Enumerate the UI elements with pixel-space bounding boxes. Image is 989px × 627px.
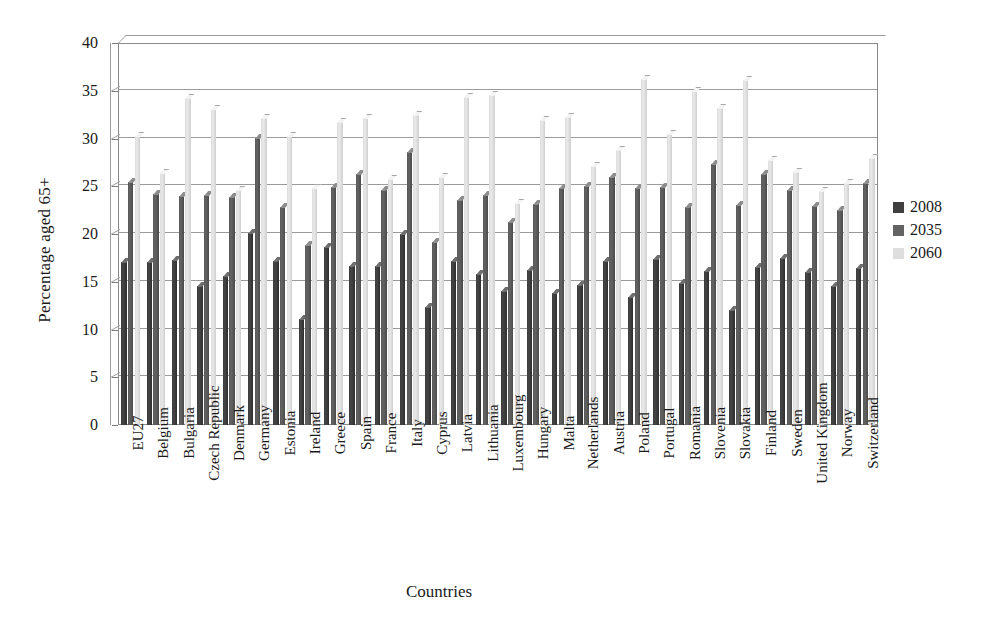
bar-face (863, 183, 868, 425)
x-axis-category-label: Estonia (270, 430, 295, 580)
bar-face (236, 190, 241, 425)
y-axis-tick-label: 10 (54, 322, 98, 338)
bar-2008 (628, 297, 633, 425)
bar-face (299, 319, 304, 425)
bar-2060 (388, 179, 393, 425)
bar-face (616, 150, 621, 425)
legend-item-2060[interactable]: 2060 (893, 242, 989, 265)
bar-top-cap (515, 199, 525, 204)
bar-2060 (540, 120, 545, 425)
bar-group (628, 43, 647, 425)
bar-face (273, 261, 278, 425)
x-axis-category-label: Greece (321, 430, 346, 580)
bar-face (717, 108, 722, 425)
bar-face (229, 197, 234, 425)
bar-top-cap (489, 91, 499, 96)
bar-2035 (128, 182, 133, 425)
y-axis-title-text: Percentage aged 65+ (35, 177, 55, 323)
bar-group (223, 43, 242, 425)
legend-swatch-icon (893, 202, 904, 213)
bar-top-cap (185, 94, 195, 99)
legend-item-2008[interactable]: 2008 (893, 196, 989, 219)
bar-face (628, 297, 633, 425)
y-axis-tick-label: 0 (54, 417, 98, 433)
x-axis-category-label: Lithuania (473, 430, 498, 580)
bar-face (407, 152, 412, 425)
bar-face (743, 80, 748, 425)
bar-face (591, 166, 596, 425)
bar-2060 (185, 98, 190, 425)
bar-face (729, 310, 734, 425)
bar-group (527, 43, 546, 425)
bar-face (552, 293, 557, 425)
legend-item-2035[interactable]: 2035 (893, 219, 989, 242)
bar-2008 (729, 310, 734, 425)
bar-2035 (229, 197, 234, 425)
bar-top-cap (743, 76, 753, 81)
bar-2060 (844, 183, 849, 425)
bar-top-cap (844, 179, 854, 184)
bar-face (432, 242, 437, 425)
bar-2035 (685, 207, 690, 425)
bar-top-cap (565, 113, 575, 118)
bar-face (565, 117, 570, 425)
bar-face (337, 122, 342, 425)
bar-face (540, 120, 545, 425)
bar-2008 (780, 258, 785, 425)
x-axis-category-label: Sweden (777, 430, 802, 580)
bar-2008 (299, 319, 304, 425)
bar-2060 (413, 115, 418, 425)
bar-2008 (223, 276, 228, 425)
bar-2035 (432, 242, 437, 425)
bar-2035 (153, 194, 158, 425)
bar-group (172, 43, 191, 425)
bar-face (869, 158, 874, 425)
bar-face (280, 207, 285, 425)
bar-face (381, 190, 386, 425)
x-axis-category-label: Spain (346, 430, 371, 580)
legend-swatch-icon (893, 225, 904, 236)
bar-face (660, 187, 665, 425)
bar-top-cap (717, 104, 727, 109)
bar-top-cap (540, 116, 550, 121)
bar-2008 (197, 286, 202, 425)
bar-2060 (768, 160, 773, 425)
x-axis-category-label: Hungary (523, 430, 548, 580)
bar-face (653, 259, 658, 425)
bar-2060 (211, 109, 216, 425)
bar-2008 (451, 261, 456, 425)
bar-face (856, 268, 861, 425)
bar-face (223, 276, 228, 425)
bar-group (501, 43, 520, 425)
x-axis-category-labels: EU27BelgiumBulgariaCzech RepublicDenmark… (118, 430, 878, 580)
bar-face (831, 286, 836, 425)
bar-top-cap (819, 187, 829, 192)
bar-2008 (400, 234, 405, 425)
bar-face (761, 174, 766, 425)
bar-2008 (755, 267, 760, 425)
bar-2035 (736, 205, 741, 425)
bar-2008 (349, 266, 354, 425)
bar-face (248, 233, 253, 425)
bar-group (552, 43, 571, 425)
bar-group (400, 43, 419, 425)
bar-2008 (831, 286, 836, 425)
chart-figure: Percentage aged 65+ 0510152025303540 EU2… (0, 0, 989, 627)
bar-face (153, 194, 158, 425)
bar-group (147, 43, 166, 425)
bar-2008 (704, 271, 709, 425)
bar-face (679, 283, 684, 425)
x-axis-category-label: EU27 (118, 430, 143, 580)
bar-face (375, 266, 380, 425)
bar-2008 (476, 274, 481, 425)
bar-2035 (584, 186, 589, 425)
bar-2060 (160, 173, 165, 425)
bar-2008 (679, 283, 684, 425)
bar-group (476, 43, 495, 425)
bar-face (692, 91, 697, 425)
bar-2008 (248, 233, 253, 425)
x-axis-category-label: Netherlands (574, 430, 599, 580)
bar-2060 (464, 97, 469, 425)
x-axis-title: Countries (0, 582, 878, 602)
bar-top-cap (388, 175, 398, 180)
